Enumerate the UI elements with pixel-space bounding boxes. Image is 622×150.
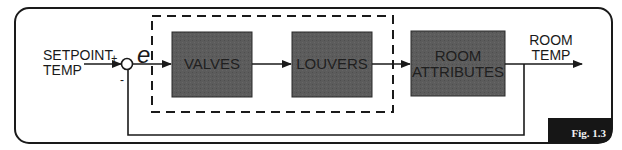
room-attributes-label-line2: ATTRIBUTES (412, 63, 504, 80)
valves-label: VALVES (184, 55, 240, 72)
output-label-line2: TEMP (532, 47, 571, 63)
minus-sign: - (120, 73, 124, 87)
input-label-line2: TEMP (43, 62, 82, 78)
figure-badge: Fig. 1.3 (548, 118, 612, 143)
figure-label: Fig. 1.3 (571, 127, 606, 139)
error-symbol: e (137, 41, 150, 68)
plus-sign: + (111, 52, 117, 64)
summing-junction (122, 59, 133, 70)
control-loop-diagram: SETPOINT TEMP + - e VALVES LOUVERS ROOM … (0, 0, 622, 150)
room-attributes-label-line1: ROOM (435, 47, 482, 64)
louvers-label: LOUVERS (296, 55, 368, 72)
output-label-line1: ROOM (529, 32, 573, 48)
input-label-line1: SETPOINT (43, 47, 113, 63)
